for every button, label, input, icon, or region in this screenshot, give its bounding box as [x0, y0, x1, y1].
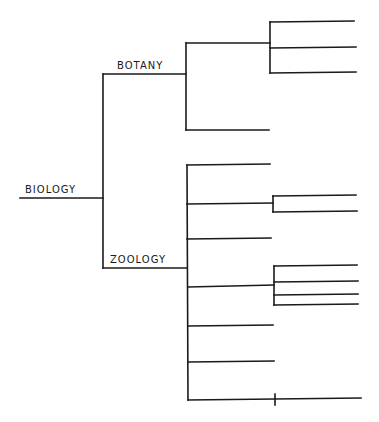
- zoology-branch-1: [187, 164, 270, 165]
- zoology-branch-2: [187, 203, 273, 204]
- zoology-branch-4-leaf-3: [274, 294, 358, 295]
- zoology-branch-6: [188, 361, 274, 362]
- zoology-branch-4-leaf-1: [274, 265, 357, 266]
- label-biology: BIOLOGY: [25, 184, 76, 196]
- zoology-branch-5: [188, 325, 273, 326]
- botany-leaf-1: [270, 21, 354, 22]
- label-zoology: ZOOLOGY: [110, 254, 166, 266]
- label-botany: BOTANY: [117, 60, 163, 72]
- zoology-branch-4: [188, 285, 274, 287]
- zoology-branch-7-leaf: [275, 398, 361, 399]
- zoology-branch-2-leaf-2: [273, 211, 357, 212]
- botany-leaf-3: [270, 72, 356, 73]
- zoology-branch-7: [188, 399, 274, 400]
- zoology-branch-4-leaf-2: [274, 281, 358, 282]
- zoology-branch-4-leaf-4: [274, 304, 358, 305]
- zoology-branch-3: [187, 238, 271, 239]
- zoology-vertical: [187, 165, 188, 400]
- botany-leaf-2: [270, 47, 356, 48]
- zoology-branch-2-leaf-1: [273, 195, 356, 196]
- tree-diagram: [0, 0, 379, 422]
